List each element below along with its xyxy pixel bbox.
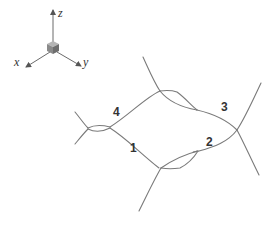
- edge-label-1: 1: [130, 141, 137, 155]
- top-strand: [143, 57, 160, 91]
- axes-triad: z x y: [13, 6, 89, 69]
- y-axis: [57, 52, 81, 66]
- edge-3: [197, 110, 237, 130]
- bottom-lens-lower: [161, 151, 198, 169]
- knot-diagram: z x y 4 1 3 2: [0, 0, 274, 225]
- x-axis: [26, 52, 50, 67]
- x-axis-label: x: [13, 55, 20, 69]
- left-strand-upper: [75, 112, 88, 128]
- edge-label-3: 3: [221, 100, 228, 114]
- top-lens-upper: [160, 91, 197, 110]
- left-strand-lower: [75, 129, 88, 144]
- z-axis-label: z: [57, 6, 63, 20]
- bottom-strand: [139, 168, 161, 211]
- edge-label-2: 2: [206, 135, 213, 149]
- edge-label-4: 4: [113, 105, 120, 119]
- left-lens-top: [88, 126, 110, 128]
- edge-2: [193, 130, 237, 152]
- left-lens-bottom: [88, 128, 110, 131]
- y-axis-label: y: [82, 55, 89, 69]
- top-lens-lower: [160, 91, 197, 110]
- right-strand-lower: [237, 130, 259, 175]
- right-strand-upper: [237, 83, 261, 130]
- curve-network: [75, 57, 261, 211]
- bottom-lens-upper: [161, 151, 198, 168]
